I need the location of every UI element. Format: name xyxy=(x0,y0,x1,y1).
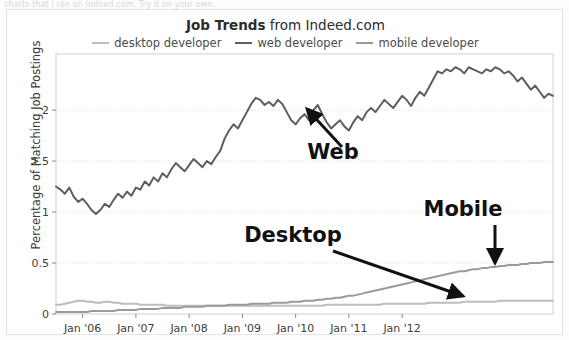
x-axis-tick-label: Jan '06 xyxy=(63,322,101,335)
chart-card: Job Trends from Indeed.com desktop devel… xyxy=(6,9,563,335)
x-axis-tick-label: Jan '09 xyxy=(223,322,261,335)
x-axis-tick-label: Jan '10 xyxy=(276,322,314,335)
cut-off-page-text: charts that I ran on Indeed.com. Try it … xyxy=(0,0,569,9)
y-axis-title: Percentage of Matching Job Postings xyxy=(29,20,43,270)
y-axis-tick-label: 1 xyxy=(42,206,49,219)
annotation-label-mobile: Mobile xyxy=(424,197,503,221)
x-axis-tick-label: Jan '11 xyxy=(329,322,367,335)
annotation-label-desktop: Desktop xyxy=(244,223,342,247)
y-axis-tick-label: 0 xyxy=(42,308,49,321)
plot-area: 00.511.52Jan '06Jan '07Jan '08Jan '09Jan… xyxy=(7,10,564,336)
plot-frame xyxy=(56,54,553,314)
y-axis-tick-label: 2 xyxy=(42,104,49,117)
annotation-label-web: Web xyxy=(307,140,359,164)
chart-screenshot: charts that I ran on Indeed.com. Try it … xyxy=(0,0,569,340)
x-axis-tick-label: Jan '07 xyxy=(116,322,154,335)
plot-svg: 00.511.52Jan '06Jan '07Jan '08Jan '09Jan… xyxy=(7,10,564,336)
x-axis-tick-label: Jan '08 xyxy=(169,322,207,335)
x-axis-tick-label: Jan '12 xyxy=(382,322,420,335)
